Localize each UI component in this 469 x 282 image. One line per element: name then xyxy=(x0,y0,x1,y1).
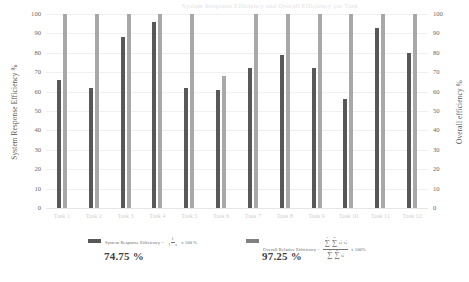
x-axis-tick-label: Task 12 xyxy=(393,212,431,219)
formula-denominator-term: tᵢⱼ xyxy=(341,253,344,258)
y-axis-right-tick-label: 50 xyxy=(433,108,440,115)
gridline xyxy=(46,92,428,93)
gridline xyxy=(46,130,428,131)
bar-group: Task 8 xyxy=(280,14,290,208)
formula-fraction-secondary: n ∑ i=1 m ∑ j=1 eᵢⱼ tᵢⱼ n xyxy=(323,237,348,262)
legend-primary-text: System Response Efficiency = xyxy=(105,240,164,245)
bar-group: Task 12 xyxy=(407,14,417,208)
bar-system-response-efficiency[interactable] xyxy=(312,68,316,208)
gridline xyxy=(46,150,428,151)
y-axis-right-tick-label: 70 xyxy=(433,69,440,76)
bar-overall-relative-efficiency[interactable] xyxy=(318,14,322,208)
y-axis-right-tick-label: 40 xyxy=(433,127,440,134)
bar-overall-relative-efficiency[interactable] xyxy=(222,76,226,208)
legend-item-system-response-efficiency: System Response Efficiency = 1 1 + s x 1… xyxy=(88,236,197,249)
bar-overall-relative-efficiency[interactable] xyxy=(127,14,131,208)
legend-secondary-suffix: x 100% xyxy=(351,247,366,252)
bar-overall-relative-efficiency[interactable] xyxy=(63,14,67,208)
gridline xyxy=(46,33,428,34)
y-axis-left-tick-label: 70 xyxy=(34,69,41,76)
bar-overall-relative-efficiency[interactable] xyxy=(190,14,194,208)
bar-system-response-efficiency[interactable] xyxy=(280,55,284,208)
y-axis-left-tick-label: 80 xyxy=(34,50,41,57)
bar-group: Task 6 xyxy=(216,14,226,208)
bar-overall-relative-efficiency[interactable] xyxy=(286,14,290,208)
y-axis-right-tick-label: 10 xyxy=(433,186,440,193)
bar-overall-relative-efficiency[interactable] xyxy=(381,14,385,208)
sum-symbol-1-icon: n ∑ i=1 xyxy=(325,237,330,249)
gridline xyxy=(46,208,428,209)
gridline xyxy=(46,14,428,15)
y-axis-left-tick-label: 0 xyxy=(38,205,41,212)
y-axis-left-tick-label: 50 xyxy=(34,108,41,115)
gridline xyxy=(46,169,428,170)
bar-overall-relative-efficiency[interactable] xyxy=(158,14,162,208)
bar-group: Task 7 xyxy=(248,14,258,208)
formula-denominator-secondary: n ∑ i=1 m ∑ j=1 tᵢⱼ xyxy=(326,250,346,262)
sum-symbol-2-icon: m ∑ j=1 xyxy=(332,237,337,249)
y-axis-left-tick-label: 30 xyxy=(34,147,41,154)
legend-primary-suffix: x 100 % xyxy=(181,240,197,245)
bar-group: Task 10 xyxy=(343,14,353,208)
bar-group: Task 11 xyxy=(375,14,385,208)
y-axis-left-tick-label: 60 xyxy=(34,89,41,96)
bar-system-response-efficiency[interactable] xyxy=(375,28,379,208)
y-axis-right-tick-label: 60 xyxy=(433,89,440,96)
gridline xyxy=(46,111,428,112)
y-axis-left-tick-label: 10 xyxy=(34,186,41,193)
y-axis-right-tick-label: 100 xyxy=(433,11,443,18)
bar-system-response-efficiency[interactable] xyxy=(89,88,93,208)
y-axis-left-tick-label: 20 xyxy=(34,166,41,173)
formula-denominator-primary: 1 + s xyxy=(167,243,178,248)
formula-fraction-primary: 1 1 + s xyxy=(167,237,178,248)
y-axis-right-title: Overall efficiency % xyxy=(456,42,464,182)
bar-group: Task 9 xyxy=(312,14,322,208)
y-axis-left-title: System Response Efficiency % xyxy=(11,42,19,182)
y-axis-left-tick-label: 100 xyxy=(31,11,41,18)
bar-system-response-efficiency[interactable] xyxy=(121,37,125,208)
summary-value-overall-relative-efficiency: 97.25 % xyxy=(262,250,302,262)
plot-area: 1001009090808070706060505040403030202010… xyxy=(46,14,428,208)
y-axis-right-tick-label: 90 xyxy=(433,30,440,37)
bar-group: Task 5 xyxy=(184,14,194,208)
bar-overall-relative-efficiency[interactable] xyxy=(349,14,353,208)
bar-group: Task 1 xyxy=(57,14,67,208)
y-axis-left-tick-label: 90 xyxy=(34,30,41,37)
bar-system-response-efficiency[interactable] xyxy=(407,53,411,208)
legend-swatch-primary-icon xyxy=(88,239,101,243)
bar-system-response-efficiency[interactable] xyxy=(248,68,252,208)
bar-system-response-efficiency[interactable] xyxy=(216,90,220,208)
chart-legend: System Response Efficiency = 1 1 + s x 1… xyxy=(0,232,469,282)
bar-system-response-efficiency[interactable] xyxy=(184,88,188,208)
bar-group: Task 3 xyxy=(121,14,131,208)
bar-system-response-efficiency[interactable] xyxy=(57,80,61,208)
sum-symbol-4-icon: m ∑ j=1 xyxy=(334,250,339,262)
summary-value-system-response-efficiency: 74.75 % xyxy=(104,250,144,262)
formula-numerator-secondary: n ∑ i=1 m ∑ j=1 eᵢⱼ tᵢⱼ xyxy=(323,237,348,250)
legend-swatch-secondary-icon xyxy=(246,239,259,243)
gridline xyxy=(46,189,428,190)
bar-overall-relative-efficiency[interactable] xyxy=(413,14,417,208)
bar-overall-relative-efficiency[interactable] xyxy=(254,14,258,208)
legend-label-primary: System Response Efficiency = 1 1 + s x 1… xyxy=(105,236,197,249)
chart-container: System Response Efficiency and Overall E… xyxy=(0,0,469,282)
gridline xyxy=(46,53,428,54)
bar-group: Task 4 xyxy=(152,14,162,208)
formula-numerator-term: eᵢⱼ tᵢⱼ xyxy=(339,240,347,245)
y-axis-right-tick-label: 80 xyxy=(433,50,440,57)
bar-group: Task 2 xyxy=(89,14,99,208)
y-axis-right-tick-label: 20 xyxy=(433,166,440,173)
y-axis-right-tick-label: 30 xyxy=(433,147,440,154)
gridline xyxy=(46,72,428,73)
bar-system-response-efficiency[interactable] xyxy=(343,99,347,208)
y-axis-right-tick-label: 0 xyxy=(433,205,436,212)
y-axis-left-tick-label: 40 xyxy=(34,127,41,134)
chart-title: System Response Efficiency and Overall E… xyxy=(120,0,420,12)
bar-system-response-efficiency[interactable] xyxy=(152,22,156,208)
sum-symbol-3-icon: n ∑ i=1 xyxy=(327,250,332,262)
bar-overall-relative-efficiency[interactable] xyxy=(95,14,99,208)
